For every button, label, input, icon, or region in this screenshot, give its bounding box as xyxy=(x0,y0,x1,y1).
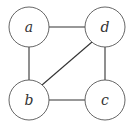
node-d-label: d xyxy=(101,19,110,35)
node-b: b xyxy=(9,80,49,120)
graph-diagram: a d b c xyxy=(0,0,131,127)
node-a-label: a xyxy=(25,19,33,35)
edge-b-d xyxy=(42,42,92,85)
node-a: a xyxy=(9,7,49,47)
node-c-label: c xyxy=(101,92,109,108)
node-b-label: b xyxy=(25,92,34,108)
node-d: d xyxy=(85,7,125,47)
node-c: c xyxy=(85,80,125,120)
